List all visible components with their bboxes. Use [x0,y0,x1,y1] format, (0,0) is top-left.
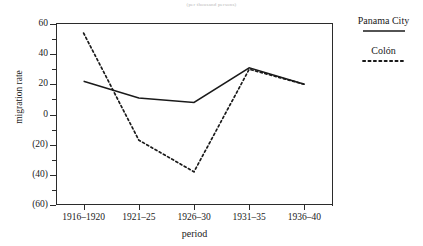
legend-label: Panama City [344,14,423,27]
legend-solid-line-icon [344,27,423,35]
legend-entry: Colón [344,44,423,65]
chart-figure: (per thousand persons) 6040200(20)(40)(6… [0,0,423,246]
legend-entry: Panama City [344,14,423,35]
legend-label: Colón [344,44,423,57]
chart-legend: Panama CityColón [344,14,423,74]
legend-dotted-line-icon [344,57,423,65]
